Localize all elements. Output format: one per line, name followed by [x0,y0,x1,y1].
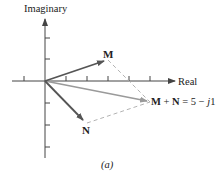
phasor-plot [0,0,216,175]
sum-label-n: N [172,96,180,107]
phasor-m-label: M [103,49,113,60]
real-axis-label: Real [178,77,197,88]
dashed-line-n-to-sum [87,102,150,123]
phasor-n-label: N [82,125,90,136]
sum-label-m: M [151,96,161,107]
real-axis-ticks [24,76,150,81]
sum-label-eq: = 5 − [180,96,208,107]
phasor-m-plus-n [45,81,147,101]
sum-label-plus: + [161,96,172,107]
imaginary-axis-ticks [45,38,50,147]
phasor-m [45,61,104,81]
imaginary-axis-label: Imaginary [24,4,67,15]
phasor-diagram: Imaginary Real M N M + N = 5 − j1 (a) [0,0,216,175]
figure-caption: (a) [101,160,113,171]
sum-label: M + N = 5 − j1 [151,97,215,108]
sum-label-one: 1 [210,96,215,107]
